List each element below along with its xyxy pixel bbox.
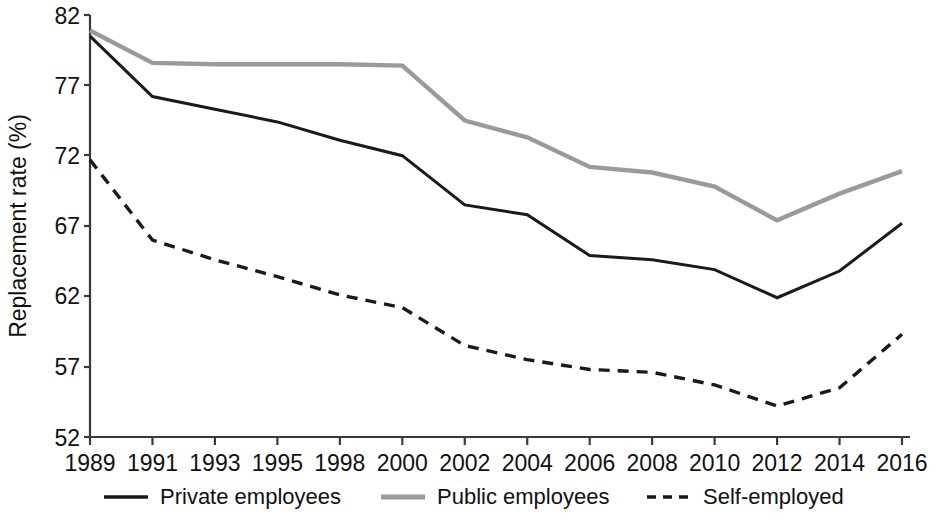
- y-tick-label: 72: [54, 143, 80, 169]
- x-tick-label: 1995: [252, 450, 303, 476]
- x-tick-label: 2006: [564, 450, 615, 476]
- legend-label: Self-employed: [703, 484, 844, 509]
- y-tick-label: 67: [54, 213, 80, 239]
- series-line-private-employees: [90, 36, 902, 298]
- y-axis-tick-labels: 82 77 72 67 62 57 52: [54, 3, 80, 451]
- x-tick-label: 2012: [751, 450, 802, 476]
- x-tick-label: 2008: [627, 450, 678, 476]
- y-tick-label: 77: [54, 73, 80, 99]
- legend-label: Public employees: [437, 484, 609, 509]
- x-axis-ticks: [90, 437, 902, 445]
- x-tick-label: 2016: [876, 450, 927, 476]
- y-axis-title: Replacement rate (%): [5, 114, 31, 338]
- x-tick-label: 1998: [314, 450, 365, 476]
- x-tick-label: 2004: [502, 450, 553, 476]
- x-tick-label: 2014: [814, 450, 865, 476]
- series-line-self-employed: [90, 160, 902, 406]
- x-tick-label: 2002: [439, 450, 490, 476]
- series-group: [90, 30, 902, 406]
- chart-figure: Replacement rate (%) 82 77 72 67 62 57 5…: [0, 0, 930, 518]
- y-tick-label: 82: [54, 3, 80, 29]
- x-tick-label: 2010: [689, 450, 740, 476]
- line-chart: Replacement rate (%) 82 77 72 67 62 57 5…: [0, 0, 930, 518]
- x-tick-label: 2000: [377, 450, 428, 476]
- x-axis-tick-labels: 1989199119931995199820002002200420062008…: [64, 450, 927, 476]
- x-tick-label: 1991: [127, 450, 178, 476]
- chart-legend: Private employeesPublic employeesSelf-em…: [104, 484, 844, 509]
- x-tick-label: 1993: [189, 450, 240, 476]
- legend-label: Private employees: [160, 484, 341, 509]
- series-line-public-employees: [90, 30, 902, 220]
- y-tick-label: 62: [54, 283, 80, 309]
- x-tick-label: 1989: [64, 450, 115, 476]
- y-tick-label: 52: [54, 425, 80, 451]
- y-tick-label: 57: [54, 354, 80, 380]
